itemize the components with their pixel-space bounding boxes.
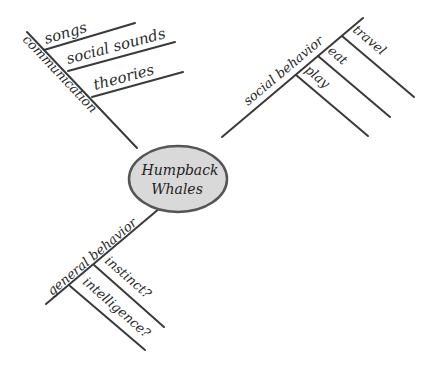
mind-map-canvas: communication songs social sounds theori…	[0, 0, 439, 365]
center-label-line2: Whales	[151, 181, 203, 197]
sub-label-travel: travel	[350, 22, 389, 58]
center-label-line1: Humpback	[140, 162, 218, 178]
center-node: Humpback Whales	[129, 146, 227, 212]
branch-general-behavior: general behavior instinct? intelligence?	[44, 208, 164, 350]
branch-communication: communication songs social sounds theori…	[20, 18, 183, 148]
center-ellipse	[129, 146, 227, 212]
mind-map-svg: communication songs social sounds theori…	[0, 0, 439, 365]
sub-line-eat	[318, 56, 390, 117]
branch-social-behavior: social behavior travel eat play	[222, 18, 414, 137]
sub-line-play	[296, 75, 368, 136]
